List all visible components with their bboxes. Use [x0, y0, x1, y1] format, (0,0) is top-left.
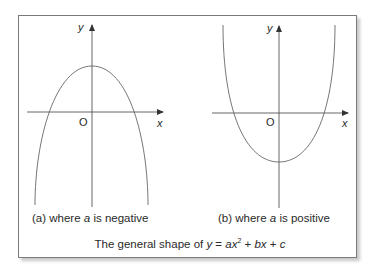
panel-a-graph [27, 25, 163, 207]
caption-ax: ax [225, 238, 237, 250]
panel-a-caption: (a) where a is negative [32, 212, 148, 224]
panel-b-origin-label: O [266, 116, 275, 128]
caption-c: c [280, 238, 286, 250]
panel-b-x-label: x [342, 117, 348, 129]
panel-a-parabola [35, 66, 148, 205]
caption-prefix: The general shape of [95, 238, 207, 250]
parabola-figure [0, 0, 380, 272]
panel-b-caption-suffix: is positive [276, 212, 330, 224]
panel-b-y-label: y [267, 22, 273, 34]
panel-a-caption-suffix: is negative [90, 212, 148, 224]
caption-equals: = [212, 238, 225, 250]
panel-b-caption-prefix: (b) where [218, 212, 270, 224]
figure-caption: The general shape of y = ax2 + bx + c [0, 237, 380, 250]
panel-b-graph [212, 25, 348, 208]
caption-bx: bx [254, 238, 266, 250]
panel-a-x-label: x [157, 117, 163, 129]
panel-a-caption-prefix: (a) where [32, 212, 84, 224]
caption-plus-2: + [267, 238, 280, 250]
panel-b-caption: (b) where a is positive [218, 212, 330, 224]
panel-a-origin-label: O [79, 116, 88, 128]
caption-plus-1: + [241, 238, 254, 250]
panel-a-y-label: y [78, 21, 84, 33]
